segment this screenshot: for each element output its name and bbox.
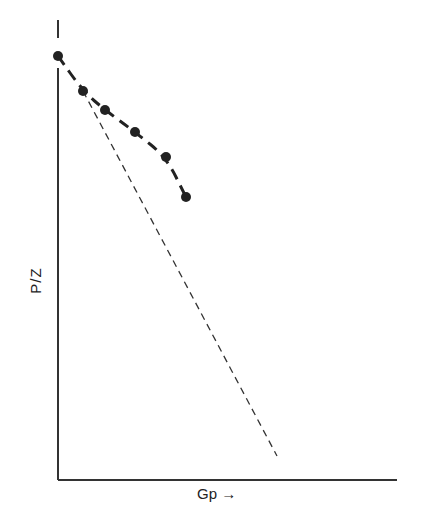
data-point-marker bbox=[130, 127, 140, 137]
y-axis-label: P/Z bbox=[27, 267, 44, 293]
data-point-marker bbox=[100, 105, 110, 115]
data-point-marker bbox=[181, 192, 191, 202]
x-axis-label: Gp → bbox=[197, 485, 236, 502]
data-point-marker bbox=[161, 152, 171, 162]
data-point-marker bbox=[78, 86, 88, 96]
chart-plot bbox=[0, 0, 433, 527]
measured-curve bbox=[58, 56, 186, 197]
extrapolated-line bbox=[83, 91, 277, 456]
data-point-marker bbox=[53, 51, 63, 61]
series-group bbox=[53, 51, 277, 456]
